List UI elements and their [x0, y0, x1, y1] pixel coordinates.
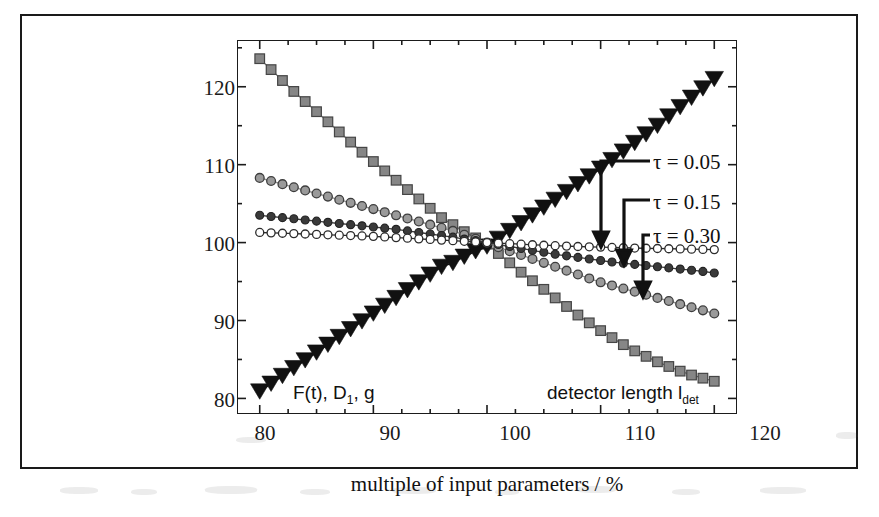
data-point [608, 243, 616, 251]
data-point [369, 157, 379, 167]
scan-artifact [300, 489, 330, 495]
data-point [562, 302, 572, 312]
data-point [256, 211, 264, 219]
data-point [710, 309, 719, 318]
data-point [653, 357, 663, 367]
data-point [392, 234, 400, 242]
data-point [426, 235, 434, 243]
data-point [585, 274, 594, 283]
data-point [630, 346, 640, 356]
data-point [312, 189, 321, 198]
scan-artifact [672, 489, 700, 495]
inplot-label-left-tail: , g [354, 382, 375, 403]
inplot-label-right-main: detector length l [547, 382, 682, 403]
data-point [574, 242, 582, 250]
data-point [335, 195, 344, 204]
data-point [676, 300, 685, 309]
data-point [403, 234, 411, 242]
data-point [607, 333, 617, 343]
data-point [619, 340, 629, 350]
data-point [255, 174, 264, 183]
data-point [437, 223, 446, 232]
data-point [563, 242, 571, 250]
data-point [551, 262, 560, 271]
data-point [687, 303, 696, 312]
data-point [664, 297, 673, 306]
data-point [278, 229, 286, 237]
data-point [369, 205, 378, 214]
data-point [539, 258, 548, 267]
data-point [699, 267, 707, 275]
scan-artifact [576, 486, 616, 493]
data-point [381, 233, 389, 241]
data-point [528, 255, 537, 264]
data-point [426, 220, 435, 229]
data-point [563, 252, 571, 260]
data-point [676, 265, 684, 273]
data-point [255, 54, 265, 64]
scan-artifact [131, 489, 157, 495]
data-point [631, 260, 639, 268]
data-point [573, 310, 583, 320]
arrow-head [594, 232, 608, 247]
data-point [278, 76, 288, 86]
data-point [585, 243, 593, 251]
data-point [290, 215, 298, 223]
data-point [324, 231, 332, 239]
data-point [483, 239, 491, 247]
data-point [608, 258, 616, 266]
data-point [437, 213, 447, 223]
data-point [334, 127, 344, 137]
tau-label-005: τ = 0.05 [653, 150, 721, 175]
data-point [687, 370, 697, 380]
annotation-arrows [594, 161, 650, 297]
scan-artifact [392, 487, 436, 494]
data-point [346, 137, 356, 147]
data-point [300, 97, 310, 107]
inplot-label-right: detector length ldet [547, 382, 699, 407]
data-point [289, 87, 299, 97]
inplot-label-right-sub: det [682, 393, 699, 407]
data-point [267, 212, 275, 220]
scan-artifact [495, 489, 519, 495]
data-point [313, 217, 321, 225]
data-point [267, 229, 275, 237]
data-point [551, 242, 559, 250]
data-point [358, 222, 366, 230]
data-point [608, 281, 617, 290]
arrow-tau-015 [617, 200, 650, 265]
data-point [415, 235, 423, 243]
data-point [449, 237, 457, 245]
data-point [528, 241, 536, 249]
scan-artifact [205, 486, 257, 494]
data-point [381, 224, 389, 232]
data-point [675, 366, 685, 376]
data-point [574, 270, 583, 279]
data-point [596, 326, 606, 336]
data-point [528, 276, 538, 286]
tau-label-015: τ = 0.15 [653, 190, 721, 215]
data-point [710, 269, 718, 277]
data-point [709, 376, 719, 386]
scan-artifact [760, 487, 806, 494]
chart-canvas: modulation depth on lamp detector w.r.t.… [0, 0, 879, 517]
data-point [574, 253, 582, 261]
scan-artifact [836, 432, 858, 439]
data-point [358, 202, 367, 211]
data-point [653, 263, 661, 271]
inplot-label-left-main: F(t), D [293, 382, 347, 403]
data-point [335, 231, 343, 239]
data-point [347, 221, 355, 229]
data-point [256, 228, 264, 236]
scan-artifact [236, 437, 266, 443]
data-point [425, 204, 435, 214]
data-point [414, 194, 424, 204]
data-point [278, 180, 287, 189]
data-point [516, 267, 526, 277]
data-point [391, 175, 401, 185]
data-point [653, 294, 662, 303]
inplot-label-left-sub: 1 [347, 393, 354, 407]
scan-artifact [60, 487, 98, 494]
data-point [698, 373, 708, 383]
data-point [301, 230, 309, 238]
